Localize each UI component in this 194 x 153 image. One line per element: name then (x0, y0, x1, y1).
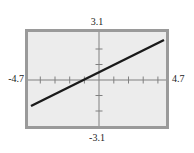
plot-svg (28, 32, 166, 126)
ymin-label: -3.1 (0, 132, 194, 143)
plotted-line (31, 40, 164, 106)
xmin-label: -4.7 (1, 73, 24, 84)
graphing-calculator-figure: 3.1 -4.7 (0, 0, 194, 153)
xmax-label: 4.7 (172, 73, 194, 84)
plot-area (28, 32, 166, 126)
ymax-label: 3.1 (0, 16, 194, 27)
calculator-screen-frame (25, 29, 169, 129)
